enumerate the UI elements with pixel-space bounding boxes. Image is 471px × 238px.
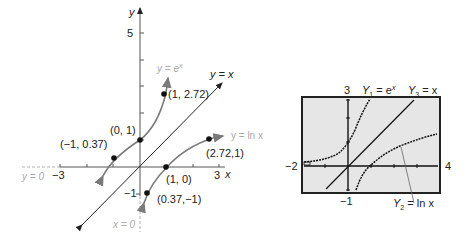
point-0-1 <box>137 137 143 143</box>
tick-label-3: 3 <box>214 169 220 181</box>
identity-line-label: y = x <box>209 68 234 80</box>
y2-label: Y2 = ln x <box>393 197 434 211</box>
log-curve-label: y = ln x <box>231 130 263 141</box>
point-label-0-1: (0, 1) <box>110 124 136 136</box>
point-neg1-037 <box>111 155 117 161</box>
point-1-0 <box>163 164 169 170</box>
point-label-1-0: (1, 0) <box>166 173 192 185</box>
calculator-screen: 3 −2 4 −1 Y1 = ex Y3 = x Y2 = ln x <box>285 84 451 211</box>
tick-label-neg3: −3 <box>52 169 65 181</box>
y1-label: Y1 = ex <box>362 84 396 98</box>
point-label-272-1: (2.72,1) <box>206 147 244 159</box>
y-axis-label: y <box>128 6 136 18</box>
asymptote-x0-label: x = 0 <box>112 219 135 230</box>
point-label-1-272: (1, 2.72) <box>168 88 209 100</box>
point-037-neg1 <box>144 190 150 196</box>
asymptote-y0-label: y = 0 <box>21 171 44 182</box>
tick-label-neg1: −1 <box>124 187 137 199</box>
point-1-272 <box>161 91 167 97</box>
exp-curve-label: y = ex <box>156 62 183 74</box>
screen-frame <box>302 97 440 193</box>
screen-xmax-label: 4 <box>445 160 451 172</box>
screen-ymin-label: −1 <box>340 195 353 207</box>
screen-xmin-label: −2 <box>285 160 298 172</box>
y3-label: Y3 = x <box>408 84 438 98</box>
figure-canvas: y x 5 −3 3 −1 y = ex y = x y = ln x y = … <box>0 0 471 238</box>
left-graph: y x 5 −3 3 −1 y = ex y = x y = ln x y = … <box>21 6 263 232</box>
x-axis-label: x <box>224 168 231 180</box>
point-272-1 <box>206 136 212 142</box>
screen-ymax-label: 3 <box>344 84 350 96</box>
point-label-037-neg1: (0.37,−1) <box>157 193 201 205</box>
tick-label-5: 5 <box>127 27 133 39</box>
point-label-neg1-037: (−1, 0.37) <box>60 138 107 150</box>
